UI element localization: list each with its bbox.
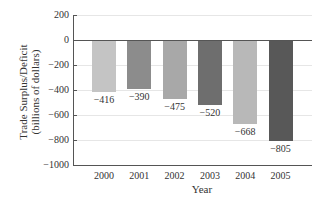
x-tick-label: 2001 bbox=[119, 170, 159, 181]
bar-2004 bbox=[233, 41, 257, 124]
y-tick-label: −600 bbox=[48, 110, 69, 120]
bar-2002 bbox=[163, 41, 187, 99]
y-tick-label: −200 bbox=[48, 60, 69, 70]
y-axis-title-line1: Trade Surplus/Deficit bbox=[17, 27, 29, 157]
y-tick bbox=[73, 165, 77, 166]
y-tick-label: 0 bbox=[64, 35, 69, 45]
y-axis-title: Trade Surplus/Deficit (billions of dolla… bbox=[17, 27, 41, 157]
x-axis-title: Year bbox=[172, 183, 232, 195]
y-axis-title-line2: (billions of dollars) bbox=[29, 27, 41, 157]
x-tick-label: 2004 bbox=[225, 170, 265, 181]
value-label: −475 bbox=[155, 102, 195, 112]
value-label: −805 bbox=[261, 144, 301, 154]
y-tick-label: −800 bbox=[48, 135, 69, 145]
y-tick bbox=[73, 40, 77, 41]
y-tick bbox=[73, 140, 77, 141]
x-tick-label: 2002 bbox=[155, 170, 195, 181]
y-tick bbox=[73, 15, 77, 16]
bar-2001 bbox=[127, 41, 151, 89]
x-tick-label: 2005 bbox=[261, 170, 301, 181]
gridline bbox=[74, 15, 312, 16]
value-label: −416 bbox=[84, 95, 124, 105]
y-tick bbox=[73, 90, 77, 91]
x-tick-label: 2003 bbox=[190, 170, 230, 181]
value-label: −668 bbox=[225, 127, 265, 137]
y-tick bbox=[73, 115, 77, 116]
y-tick-label: −1000 bbox=[43, 160, 69, 170]
value-label: −520 bbox=[190, 108, 230, 118]
x-axis bbox=[73, 165, 312, 166]
bar-2005 bbox=[269, 41, 293, 141]
bar-2003 bbox=[198, 41, 222, 105]
bar-2000 bbox=[92, 41, 116, 92]
y-tick-label: 200 bbox=[54, 10, 69, 20]
value-label: −390 bbox=[119, 92, 159, 102]
x-tick-label: 2000 bbox=[84, 170, 124, 181]
y-tick bbox=[73, 65, 77, 66]
y-tick-label: −400 bbox=[48, 85, 69, 95]
